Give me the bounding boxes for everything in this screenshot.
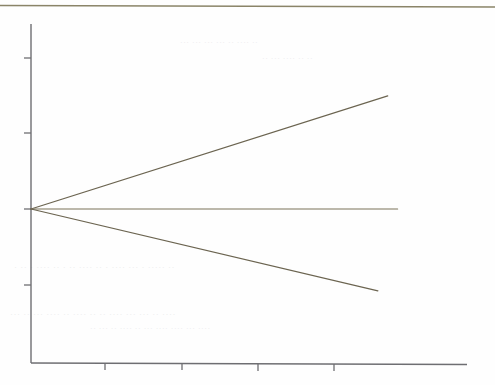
page-edge-rule [0,6,495,8]
axes-group [31,24,467,365]
x-axis-line [31,363,467,365]
chart-canvas [0,0,495,385]
data-series-group [31,96,398,291]
chart-figure: · ·· · ···· ·· · ·· ···· ·· · ···· ··· ·… [0,0,495,385]
y-tick-group [24,58,31,285]
series-line-upper-branch [31,96,388,209]
series-line-lower-branch [31,209,378,291]
